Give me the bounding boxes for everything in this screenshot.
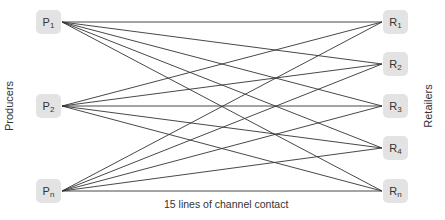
node-subscript: 4 <box>397 147 401 156</box>
node-letter: P <box>43 16 50 28</box>
node-letter: R <box>389 142 397 154</box>
node-subscript: 1 <box>397 21 401 30</box>
node-letter: R <box>389 58 397 70</box>
retailer-node-2: R2 <box>383 52 408 76</box>
node-subscript: 2 <box>397 63 401 72</box>
producer-node-1: P1 <box>36 10 61 34</box>
node-subscript: 1 <box>50 21 54 30</box>
channel-contact-line <box>62 64 382 106</box>
producer-node-n: Pn <box>36 179 61 203</box>
retailer-node-4: R4 <box>383 136 408 160</box>
diagram-caption: 15 lines of channel contact <box>164 198 288 210</box>
producers-axis-label: Producers <box>3 81 15 131</box>
retailer-node-n: Rn <box>383 179 408 203</box>
node-letter: R <box>389 185 397 197</box>
node-letter: R <box>389 100 397 112</box>
node-letter: R <box>389 16 397 28</box>
channel-contact-diagram: P1 P2 Pn R1 R2 R3 R4 Rn Producers Retail… <box>0 0 445 220</box>
retailers-axis-label: Retailers <box>422 84 434 127</box>
node-subscript: 3 <box>397 105 401 114</box>
producer-node-2: P2 <box>36 94 61 118</box>
node-subscript: 2 <box>50 105 54 114</box>
node-letter: P <box>43 100 50 112</box>
channel-contact-line <box>62 22 382 64</box>
node-subscript: n <box>397 190 401 199</box>
retailer-node-1: R1 <box>383 10 408 34</box>
channel-contact-line <box>62 106 382 148</box>
connection-lines <box>0 0 445 220</box>
channel-contact-line <box>62 64 382 191</box>
retailer-node-3: R3 <box>383 94 408 118</box>
node-subscript: n <box>50 190 54 199</box>
channel-contact-line <box>62 148 382 191</box>
node-letter: P <box>43 185 50 197</box>
